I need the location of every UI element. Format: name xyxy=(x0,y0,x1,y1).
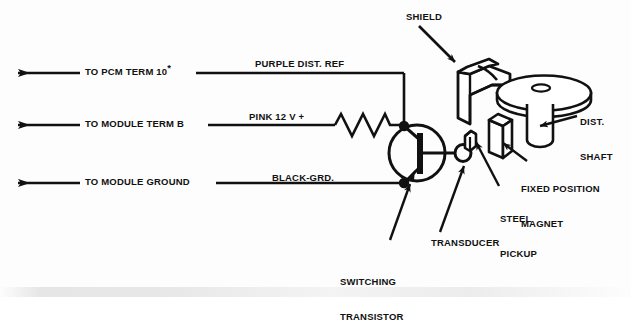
label-to-module-term-b: TO MODULE TERM B xyxy=(85,118,184,130)
wire-purple-dist-ref xyxy=(18,73,404,126)
junction-dot-emitter xyxy=(399,178,409,188)
label-black-grd: BLACK-GRD. xyxy=(272,172,334,184)
label-to-module-ground: TO MODULE GROUND xyxy=(85,176,190,188)
label-steel-pickup-line1: STEEL xyxy=(500,213,537,225)
magnet-side-face xyxy=(503,120,512,158)
fixed-position-magnet xyxy=(489,114,512,158)
leader-switching-transistor xyxy=(390,184,410,240)
transducer-assembly xyxy=(448,131,476,162)
resistor-symbol xyxy=(335,114,404,136)
label-switching-transistor: SWITCHING TRANSISTOR xyxy=(340,253,404,324)
label-steel-pickup: STEEL PICKUP xyxy=(500,190,537,282)
leader-transducer xyxy=(440,166,464,232)
label-transducer: TRANSDUCER xyxy=(431,237,500,249)
switching-transistor-symbol xyxy=(389,121,448,188)
label-switching-transistor-line1: SWITCHING xyxy=(340,276,404,288)
label-pink-12v: PINK 12 V + xyxy=(249,111,304,123)
label-dist-shaft-line1: DIST. xyxy=(580,116,613,128)
wire-pink-12v xyxy=(18,114,404,136)
junction-dot-collector xyxy=(399,121,409,131)
label-purple-dist-ref: PURPLE DIST. REF xyxy=(255,58,344,70)
label-switching-transistor-line2: TRANSISTOR xyxy=(340,311,404,323)
leader-shield xyxy=(419,26,455,62)
label-shield: SHIELD xyxy=(406,11,442,23)
label-to-pcm-term-10: TO PCM TERM 10* xyxy=(85,66,171,78)
label-steel-pickup-line2: PICKUP xyxy=(500,248,537,260)
